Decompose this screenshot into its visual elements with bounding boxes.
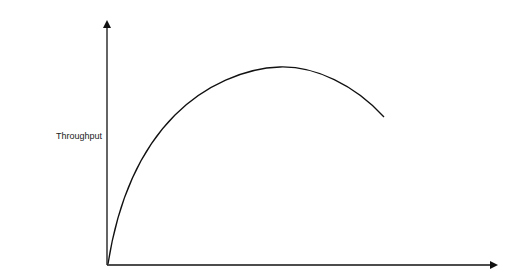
throughput-curve xyxy=(108,67,384,264)
y-axis-label: Throughput xyxy=(56,131,102,141)
